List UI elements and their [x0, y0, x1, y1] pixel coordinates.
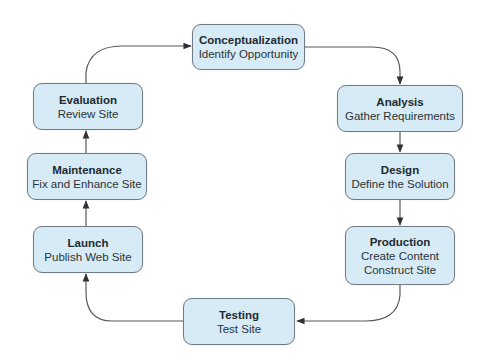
- node-subtitle: Fix and Enhance Site: [32, 177, 141, 191]
- node-conceptualization: Conceptualization Identify Opportunity: [192, 24, 305, 70]
- edge-evaluation-conceptualization: [86, 46, 191, 83]
- node-testing: Testing Test Site: [183, 298, 295, 345]
- edge-production-testing: [297, 285, 400, 321]
- node-production: Production Create Content Construct Site: [345, 226, 455, 285]
- node-analysis: Analysis Gather Requirements: [337, 85, 463, 132]
- node-title: Design: [381, 163, 419, 177]
- node-title: Launch: [68, 236, 109, 250]
- node-design: Design Define the Solution: [345, 153, 455, 200]
- node-subtitle: Review Site: [58, 107, 119, 121]
- node-title: Maintenance: [52, 163, 122, 177]
- node-subtitle-2: Construct Site: [364, 263, 436, 277]
- node-subtitle: Publish Web Site: [44, 250, 131, 264]
- edge-conceptualization-analysis: [305, 47, 400, 84]
- node-title: Testing: [219, 308, 259, 322]
- node-subtitle: Define the Solution: [351, 177, 448, 191]
- node-title: Conceptualization: [199, 33, 298, 47]
- node-title: Evaluation: [59, 93, 117, 107]
- edge-testing-launch: [86, 274, 183, 321]
- web-development-lifecycle-diagram: Conceptualization Identify Opportunity A…: [0, 0, 484, 360]
- node-subtitle: Create Content: [361, 249, 439, 263]
- node-subtitle: Test Site: [217, 322, 261, 336]
- node-launch: Launch Publish Web Site: [33, 226, 143, 273]
- node-maintenance: Maintenance Fix and Enhance Site: [27, 153, 147, 200]
- node-title: Production: [370, 235, 431, 249]
- node-evaluation: Evaluation Review Site: [33, 83, 143, 130]
- node-subtitle: Identify Opportunity: [199, 47, 299, 61]
- node-title: Analysis: [376, 95, 423, 109]
- node-subtitle: Gather Requirements: [345, 109, 455, 123]
